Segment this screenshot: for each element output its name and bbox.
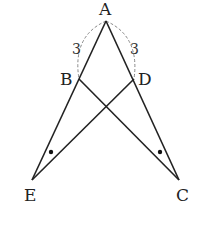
diagram-svg: A B D E C 3 3 [0, 0, 207, 229]
label-a: A [98, 0, 112, 19]
angle-mark-e [49, 150, 53, 154]
label-d: D [138, 69, 152, 89]
label-e: E [24, 185, 36, 205]
length-ab: 3 [72, 41, 81, 57]
segment-ac [106, 21, 179, 180]
segment-de [32, 79, 134, 180]
length-ad: 3 [130, 41, 139, 57]
label-c: C [176, 185, 189, 205]
angle-mark-c [158, 150, 162, 154]
geometry-diagram: A B D E C 3 3 [0, 0, 207, 229]
segment-bc [79, 79, 179, 180]
segment-ae [32, 21, 106, 180]
label-b: B [60, 69, 73, 89]
